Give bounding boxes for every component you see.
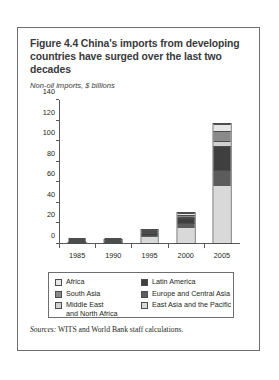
- legend-label: East Asia and the Pacific: [152, 301, 231, 309]
- y-axis-tick-mark: [56, 120, 59, 121]
- legend-swatch-africa: [55, 279, 62, 286]
- y-axis-tick-mark: [56, 161, 59, 162]
- bar-1985: [68, 242, 87, 244]
- y-axis-tick-label: 80: [47, 148, 55, 157]
- y-axis-tick-label: 20: [47, 210, 55, 219]
- chart-plot: 02040608010012014019851990199520002005: [30, 94, 248, 266]
- y-axis-tick-label: 40: [47, 189, 55, 198]
- legend-label: Africa: [66, 278, 84, 286]
- legend-label: Latin America: [152, 278, 196, 286]
- legend-swatch-middle-east-north-africa: [55, 302, 62, 309]
- sources-text: WITS and World Bank staff calculations.: [56, 325, 183, 334]
- plot-area: 02040608010012014019851990199520002005: [59, 100, 240, 244]
- bar-segment: [105, 242, 122, 243]
- legend-item-europe-central-asia[interactable]: Europe and Central Asia: [141, 290, 231, 298]
- bar-segment: [141, 237, 158, 243]
- bar-segment: [213, 124, 230, 132]
- bar-1995: [140, 229, 159, 244]
- y-axis-tick-mark: [56, 222, 59, 223]
- y-axis-tick-label: 140: [43, 87, 55, 96]
- x-axis-tick-label: 2000: [178, 251, 194, 260]
- y-axis-tick-mark: [56, 99, 59, 100]
- legend-item-middle-east-north-africa[interactable]: Middle East and North Africa: [55, 301, 118, 318]
- chart-legend: AfricaSouth AsiaMiddle East and North Af…: [48, 272, 234, 318]
- legend-item-africa[interactable]: Africa: [55, 278, 118, 286]
- bar-segment: [177, 228, 194, 243]
- x-axis-tick-mark: [59, 244, 60, 248]
- bar-2005: [212, 123, 231, 244]
- x-axis-tick-label: 1990: [105, 251, 121, 260]
- bar-2000: [176, 212, 195, 244]
- bar-segment: [213, 170, 230, 186]
- sources-label: Sources:: [30, 325, 56, 334]
- x-axis-tick-mark: [131, 244, 132, 248]
- y-axis-tick-label: 0: [51, 231, 55, 240]
- x-axis-tick-mark: [168, 244, 169, 248]
- x-axis-tick-label: 1985: [69, 251, 85, 260]
- bar-segment: [69, 242, 86, 243]
- legend-item-latin-america[interactable]: Latin America: [141, 278, 231, 286]
- bar-segment: [213, 186, 230, 243]
- x-axis-tick-label: 2005: [214, 251, 230, 260]
- legend-column-right: Latin AmericaEurope and Central AsiaEast…: [141, 278, 231, 313]
- legend-item-south-asia[interactable]: South Asia: [55, 290, 118, 298]
- x-axis-tick-mark: [204, 244, 205, 248]
- y-axis-tick-label: 120: [43, 107, 55, 116]
- legend-column-left: AfricaSouth AsiaMiddle East and North Af…: [55, 278, 118, 321]
- legend-swatch-europe-central-asia: [141, 291, 148, 298]
- y-axis-tick-mark: [56, 181, 59, 182]
- legend-swatch-east-asia-pacific: [141, 302, 148, 309]
- bar-segment: [213, 146, 230, 170]
- y-axis-tick-mark: [56, 140, 59, 141]
- legend-label: South Asia: [66, 290, 100, 298]
- legend-label: Europe and Central Asia: [152, 290, 230, 298]
- bar-1990: [104, 239, 123, 244]
- y-axis-tick-mark: [56, 202, 59, 203]
- bar-segment: [213, 131, 230, 141]
- y-axis-tick-label: 60: [47, 169, 55, 178]
- x-axis-tick-label: 1995: [141, 251, 157, 260]
- sources-note: Sources: WITS and World Bank staff calcu…: [30, 325, 248, 334]
- legend-swatch-south-asia: [55, 291, 62, 298]
- x-axis-tick-mark: [95, 244, 96, 248]
- y-axis-tick-label: 100: [43, 128, 55, 137]
- legend-swatch-latin-america: [141, 279, 148, 286]
- figure-container: Figure 4.4 China's imports from developi…: [17, 27, 260, 351]
- legend-item-east-asia-pacific[interactable]: East Asia and the Pacific: [141, 301, 231, 309]
- figure-title: Figure 4.4 China's imports from developi…: [30, 37, 248, 77]
- legend-label: Middle East and North Africa: [66, 301, 118, 318]
